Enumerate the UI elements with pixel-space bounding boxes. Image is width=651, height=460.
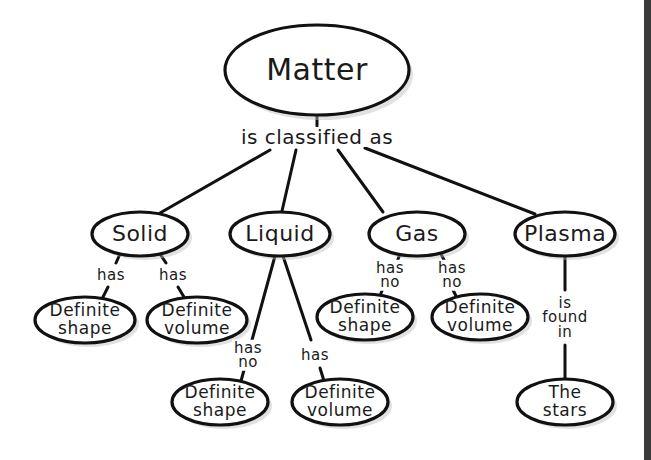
- leaf-gas-volume: Definitevolume: [445, 299, 516, 335]
- classified-link-label: is classified as: [237, 127, 397, 147]
- root-label: Matter: [266, 55, 368, 85]
- edge-link-solid: [160, 150, 270, 213]
- link-liquid-shape: hasno: [232, 340, 264, 371]
- edge-liquid-hasno: [252, 256, 275, 340]
- edge-link-liquid: [282, 150, 296, 211]
- edge-has2-volume: [178, 287, 184, 297]
- edge-has1-shape: [103, 287, 108, 297]
- edge-liquid-has: [283, 256, 311, 340]
- link-gas-volume: hasno: [436, 260, 468, 291]
- leaf-liquid-shape: Definiteshape: [185, 384, 256, 420]
- leaf-solid-volume: Definitevolume: [162, 302, 233, 338]
- edge-hasno-shape: [241, 370, 244, 381]
- link-solid-shape: has: [95, 267, 127, 283]
- leaf-gas-shape: Definiteshape: [330, 299, 401, 335]
- leaf-plasma-stars: Thestars: [543, 384, 587, 420]
- link-plasma-stars: isfoundin: [540, 295, 590, 340]
- edge-link-gas: [338, 150, 383, 212]
- link-gas-shape: hasno: [374, 260, 406, 291]
- link-solid-volume: has: [157, 267, 189, 283]
- edge-link-plasma: [365, 148, 535, 214]
- state-label-plasma: Plasma: [524, 223, 606, 245]
- state-label-gas: Gas: [395, 223, 439, 245]
- leaf-liquid-volume: Definitevolume: [305, 384, 376, 420]
- leaf-solid-shape: Definiteshape: [50, 302, 121, 338]
- state-label-solid: Solid: [112, 223, 168, 245]
- state-label-liquid: Liquid: [245, 223, 314, 245]
- link-liquid-volume: has: [299, 347, 331, 363]
- right-edge-bar: [644, 0, 651, 460]
